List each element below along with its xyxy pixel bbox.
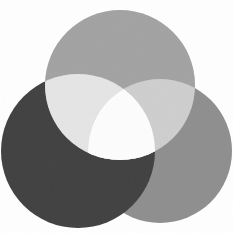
venn-diagram-figure	[0, 0, 233, 233]
venn-diagram	[0, 0, 233, 233]
scan-grain-overlay	[0, 0, 233, 233]
